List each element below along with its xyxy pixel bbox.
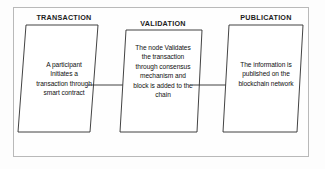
- stage-publication-heading: PUBLICATION: [223, 13, 309, 22]
- stage-publication-body: The information is published on the bloc…: [223, 60, 309, 88]
- flow-diagram: TRANSACTION A participant Initiates a tr…: [0, 0, 325, 169]
- stage-validation-heading: VALIDATION: [120, 19, 206, 28]
- stage-transaction-heading: TRANSACTION: [18, 13, 110, 22]
- stage-transaction-body: A participant Initiates a transaction th…: [18, 60, 110, 98]
- stage-validation-body: The node Validates the transaction throu…: [120, 43, 206, 99]
